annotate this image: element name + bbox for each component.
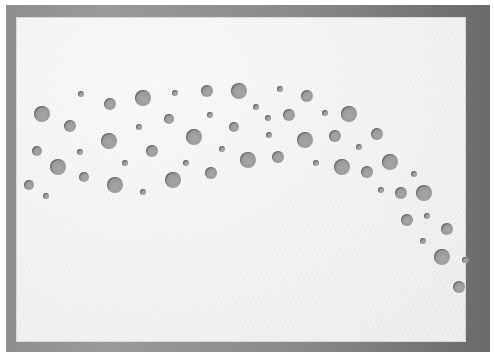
- punched-hole: [424, 213, 430, 219]
- punched-hole: [101, 133, 117, 149]
- punched-hole: [322, 110, 328, 116]
- punched-hole: [229, 122, 239, 132]
- punched-hole: [434, 249, 450, 265]
- punched-hole: [301, 90, 313, 102]
- punched-hole: [165, 172, 181, 188]
- punched-hole: [122, 160, 128, 166]
- punched-hole: [356, 144, 362, 150]
- punched-hole: [183, 160, 189, 166]
- punched-hole: [334, 159, 350, 175]
- punched-hole: [50, 159, 66, 175]
- punched-hole: [136, 124, 142, 130]
- punched-hole: [43, 193, 49, 199]
- punched-hole: [441, 223, 453, 235]
- punched-hole: [32, 146, 42, 156]
- punched-hole: [453, 281, 465, 293]
- punched-hole: [77, 149, 83, 155]
- punched-hole: [253, 104, 259, 110]
- punched-hole: [382, 154, 398, 170]
- punched-hole: [283, 109, 295, 121]
- punched-hole: [395, 187, 407, 199]
- punched-hole: [104, 98, 116, 110]
- punched-hole: [341, 106, 357, 122]
- punched-hole: [401, 214, 413, 226]
- punched-hole: [240, 152, 256, 168]
- punched-hole: [164, 114, 174, 124]
- punched-hole: [24, 180, 34, 190]
- punched-hole: [205, 167, 217, 179]
- punched-hole: [277, 86, 283, 92]
- punched-hole: [146, 145, 158, 157]
- punched-hole: [266, 132, 272, 138]
- punched-hole: [201, 85, 213, 97]
- punched-hole: [416, 185, 432, 201]
- punched-hole: [135, 90, 151, 106]
- punched-hole: [78, 91, 84, 97]
- punched-hole: [34, 106, 50, 122]
- punched-hole: [297, 132, 313, 148]
- punched-hole: [462, 257, 468, 263]
- punched-hole: [79, 172, 89, 182]
- punched-hole: [64, 120, 76, 132]
- punched-hole: [140, 189, 146, 195]
- punched-hole: [107, 177, 123, 193]
- punched-hole: [272, 151, 284, 163]
- punched-hole: [411, 171, 417, 177]
- punched-hole: [265, 115, 271, 121]
- punched-hole: [420, 238, 426, 244]
- punched-hole: [172, 90, 178, 96]
- punched-hole: [329, 130, 341, 142]
- punched-hole: [361, 166, 373, 178]
- punched-hole: [219, 146, 225, 152]
- punched-hole: [371, 128, 383, 140]
- punched-hole: [207, 112, 213, 118]
- punched-hole: [313, 160, 319, 166]
- punched-hole: [231, 83, 247, 99]
- punched-hole: [378, 187, 384, 193]
- punched-hole: [186, 129, 202, 145]
